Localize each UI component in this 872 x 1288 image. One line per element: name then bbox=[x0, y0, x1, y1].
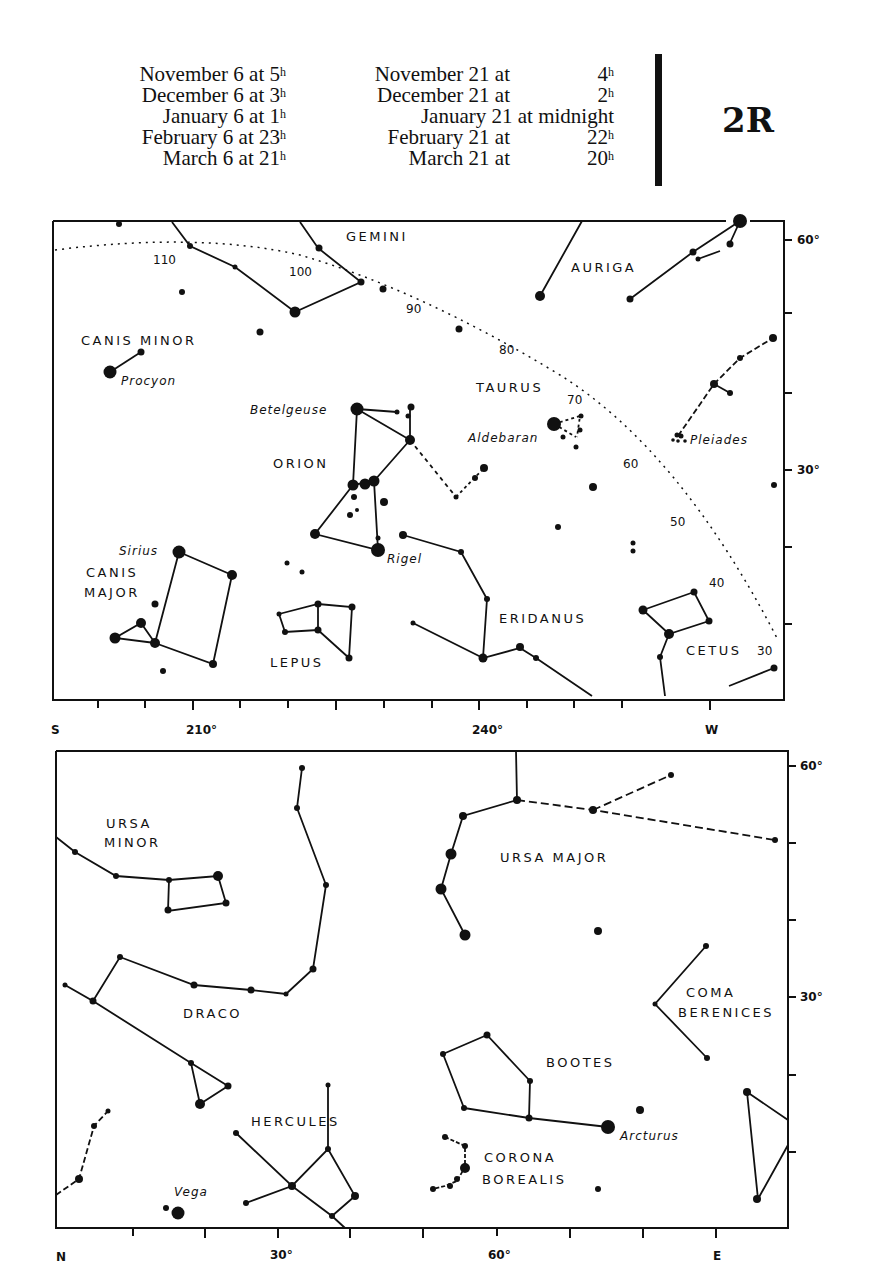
axis-60: 60° bbox=[488, 1248, 511, 1262]
south-chart-frame bbox=[53, 221, 784, 700]
axis-east: E bbox=[713, 1249, 721, 1263]
axis-north: N bbox=[56, 1250, 66, 1264]
axis-30: 30° bbox=[270, 1248, 293, 1262]
ecliptic-mark: 60 bbox=[623, 457, 638, 471]
axis-dec-30: 30° bbox=[797, 463, 820, 477]
label-bootes: BOOTES bbox=[546, 1055, 615, 1070]
ecliptic-mark: 40 bbox=[709, 576, 724, 590]
axis-alt-60: 60° bbox=[800, 759, 823, 773]
axis-west: W bbox=[705, 723, 718, 737]
label-orion: ORION bbox=[273, 456, 329, 471]
label-minor: MINOR bbox=[104, 835, 161, 850]
label-ursa: URSA bbox=[106, 816, 152, 831]
ecliptic-mark: 110 bbox=[153, 253, 176, 267]
axis-240: 240° bbox=[472, 723, 503, 737]
star-charts: GEMINI AURIGA CANIS MINOR TAURUS ORION C… bbox=[0, 0, 872, 1288]
ecliptic-mark: 90 bbox=[406, 302, 421, 316]
label-berenices: BERENICES bbox=[678, 1005, 774, 1020]
axis-alt-30: 30° bbox=[800, 990, 823, 1004]
label-procyon: Procyon bbox=[121, 374, 176, 388]
label-pleiades: Pleiades bbox=[690, 433, 748, 447]
label-borealis: BOREALIS bbox=[482, 1172, 566, 1187]
label-gemini: GEMINI bbox=[346, 229, 408, 244]
label-canis: CANIS bbox=[86, 565, 138, 580]
ecliptic-mark: 50 bbox=[670, 515, 685, 529]
label-aldebaran: Aldebaran bbox=[467, 431, 538, 445]
label-cetus: CETUS bbox=[686, 643, 742, 658]
label-betelgeuse: Betelgeuse bbox=[250, 403, 327, 417]
ecliptic-mark: 100 bbox=[289, 265, 312, 279]
axis-210: 210° bbox=[186, 723, 217, 737]
label-major: MAJOR bbox=[84, 585, 140, 600]
axis-south: S bbox=[51, 723, 60, 737]
label-ursa-major: URSA MAJOR bbox=[500, 850, 608, 865]
label-hercules: HERCULES bbox=[251, 1114, 340, 1129]
label-lepus: LEPUS bbox=[270, 655, 324, 670]
ecliptic-mark: 80 bbox=[499, 343, 514, 357]
label-auriga: AURIGA bbox=[571, 260, 636, 275]
label-rigel: Rigel bbox=[387, 552, 422, 566]
label-taurus: TAURUS bbox=[475, 380, 543, 395]
label-sirius: Sirius bbox=[119, 544, 158, 558]
label-corona: CORONA bbox=[484, 1150, 556, 1165]
label-arcturus: Arcturus bbox=[619, 1129, 679, 1143]
label-vega: Vega bbox=[174, 1185, 208, 1199]
ecliptic-mark: 70 bbox=[567, 393, 582, 407]
label-coma: COMA bbox=[686, 985, 735, 1000]
ecliptic-mark: 30 bbox=[757, 644, 772, 658]
north-chart-frame bbox=[56, 751, 788, 1228]
label-eridanus: ERIDANUS bbox=[499, 611, 586, 626]
axis-dec-60: 60° bbox=[797, 233, 820, 247]
label-canis-minor: CANIS MINOR bbox=[81, 333, 196, 348]
label-draco: DRACO bbox=[183, 1006, 242, 1021]
